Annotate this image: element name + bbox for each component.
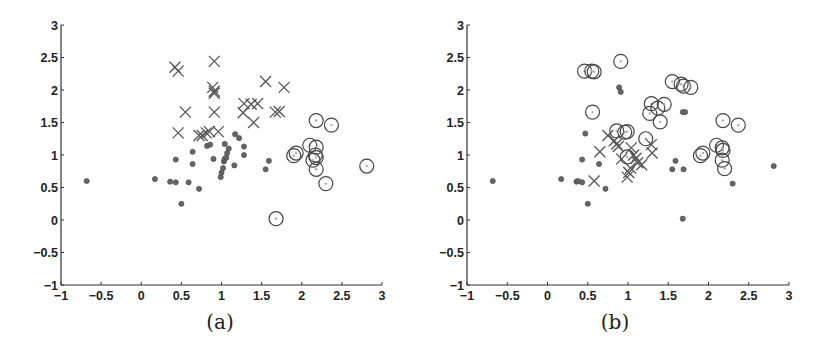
- chart-panel-b: −1−0.500.511.522.53−1−0.500.511.522.53 (…: [413, 0, 826, 358]
- x-tick-label: 0: [544, 289, 551, 303]
- filled-dot-marker-icon: [490, 178, 495, 183]
- filled-dot-marker-icon: [730, 181, 735, 186]
- filled-dot-marker-icon: [580, 157, 585, 162]
- y-tick-label: 2.5: [447, 51, 464, 65]
- filled-dot-marker-icon: [680, 216, 685, 221]
- x-marker-icon: [636, 159, 647, 170]
- filled-dot-marker-icon: [186, 180, 191, 185]
- filled-dot-marker-icon: [670, 167, 675, 172]
- filled-dot-marker-icon: [168, 179, 173, 184]
- x-tick-label: 2: [705, 289, 712, 303]
- x-marker-icon: [213, 126, 224, 137]
- filled-dot-marker-icon: [603, 186, 608, 191]
- x-tick-label: −0.5: [495, 289, 520, 303]
- filled-dot-marker-icon: [226, 146, 231, 151]
- filled-dot-marker-icon: [241, 152, 246, 157]
- center-dot-icon: [325, 182, 327, 184]
- center-dot-icon: [671, 80, 673, 82]
- filled-dot-marker-icon: [771, 163, 776, 168]
- center-dot-icon: [699, 154, 701, 156]
- center-dot-icon: [721, 159, 723, 161]
- center-dot-icon: [626, 156, 628, 158]
- filled-dot-marker-icon: [673, 158, 678, 163]
- y-tick-label: 0.5: [41, 181, 58, 195]
- filled-dot-marker-icon: [263, 167, 268, 172]
- y-tick-label: 3: [51, 19, 58, 33]
- center-dot-icon: [626, 130, 628, 132]
- x-tick-label: 3: [379, 289, 386, 303]
- x-tick-label: 0.5: [173, 289, 190, 303]
- center-dot-icon: [722, 119, 724, 121]
- y-tick-label: 0: [457, 214, 464, 228]
- x-marker-icon: [260, 76, 271, 87]
- filled-dot-marker-icon: [683, 110, 688, 115]
- filled-dot-marker-icon: [583, 131, 588, 136]
- scatter-plot-b: −1−0.500.511.522.53−1−0.500.511.522.53: [413, 0, 826, 358]
- filled-dot-marker-icon: [190, 149, 195, 154]
- filled-dot-marker-icon: [179, 201, 184, 206]
- y-tick-label: 0: [51, 214, 58, 228]
- x-marker-icon: [238, 107, 249, 118]
- filled-dot-marker-icon: [221, 165, 226, 170]
- filled-dot-marker-icon: [681, 167, 686, 172]
- center-dot-icon: [330, 124, 332, 126]
- y-tick-label: −1: [44, 279, 58, 293]
- x-tick-label: 1: [625, 289, 632, 303]
- center-dot-icon: [737, 124, 739, 126]
- x-marker-icon: [647, 148, 658, 159]
- series-dot: [84, 132, 271, 207]
- center-dot-icon: [620, 60, 622, 62]
- filled-dot-marker-icon: [190, 162, 195, 167]
- center-dot-icon: [593, 71, 595, 73]
- y-tick-label: 0.5: [447, 181, 464, 195]
- chart-panel-a: −1−0.500.511.522.53−1−0.500.511.522.53 (…: [0, 0, 413, 358]
- center-dot-icon: [649, 112, 651, 114]
- center-dot-icon: [312, 159, 314, 161]
- axes: −1−0.500.511.522.53−1−0.500.511.522.53: [33, 19, 385, 304]
- y-tick-label: 2.5: [41, 51, 58, 65]
- x-marker-icon: [252, 98, 263, 109]
- center-dot-icon: [663, 103, 665, 105]
- series-circle: [269, 114, 374, 226]
- filled-dot-marker-icon: [585, 201, 590, 206]
- x-marker-icon: [209, 107, 220, 118]
- x-marker-icon: [209, 56, 220, 67]
- center-dot-icon: [295, 152, 297, 154]
- center-dot-icon: [624, 131, 626, 133]
- center-dot-icon: [721, 147, 723, 149]
- filled-dot-marker-icon: [580, 180, 585, 185]
- x-tick-label: 1: [218, 289, 225, 303]
- x-marker-icon: [248, 117, 259, 128]
- center-dot-icon: [315, 168, 317, 170]
- x-marker-icon: [279, 82, 290, 93]
- y-tick-label: 1.5: [447, 116, 464, 130]
- y-tick-label: 1: [51, 149, 58, 163]
- x-tick-label: 2: [298, 289, 305, 303]
- center-dot-icon: [315, 119, 317, 121]
- filled-dot-marker-icon: [266, 158, 271, 163]
- y-tick-label: 3: [457, 19, 464, 33]
- filled-dot-marker-icon: [618, 89, 623, 94]
- y-tick-label: −1: [450, 279, 464, 293]
- center-dot-icon: [722, 149, 724, 151]
- filled-dot-marker-icon: [222, 141, 227, 146]
- x-tick-label: 0: [138, 289, 145, 303]
- x-tick-label: 2.5: [740, 289, 757, 303]
- x-tick-label: 3: [786, 289, 793, 303]
- x-marker-icon: [173, 66, 184, 77]
- center-dot-icon: [275, 218, 277, 220]
- center-dot-icon: [293, 154, 295, 156]
- center-dot-icon: [690, 86, 692, 88]
- center-dot-icon: [591, 111, 593, 113]
- filled-dot-marker-icon: [232, 163, 237, 168]
- axes: −1−0.500.511.522.53−1−0.500.511.522.53: [439, 19, 792, 304]
- y-tick-label: 1.5: [41, 116, 58, 130]
- x-tick-label: −0.5: [89, 289, 114, 303]
- filled-dot-marker-icon: [241, 144, 246, 149]
- scatter-plot-a: −1−0.500.511.522.53−1−0.500.511.522.53: [0, 0, 413, 358]
- filled-dot-marker-icon: [196, 186, 201, 191]
- x-marker-icon: [180, 107, 191, 118]
- x-marker-icon: [209, 86, 220, 97]
- filled-dot-marker-icon: [173, 180, 178, 185]
- x-tick-label: 1.5: [253, 289, 270, 303]
